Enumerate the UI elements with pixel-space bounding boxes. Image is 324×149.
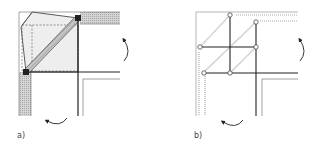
figure-canvas — [0, 0, 324, 149]
rotation-arrow-icon — [223, 120, 243, 126]
pin-node — [254, 20, 258, 24]
inner-corner — [83, 79, 120, 116]
rotation-arrow-icon — [300, 40, 304, 61]
pin-node — [198, 45, 202, 49]
rotation-arrow-icon — [47, 118, 67, 124]
top-wall-hatched — [80, 12, 120, 24]
pin-node — [228, 71, 232, 75]
left-wall-hatched — [19, 72, 31, 116]
rotation-arrow-icon — [124, 40, 128, 61]
panel-b — [196, 12, 304, 126]
pin-node — [254, 45, 258, 49]
panel-a-label: a) — [17, 131, 25, 140]
node-dark — [75, 15, 81, 21]
panel-b-label: b) — [194, 131, 202, 140]
inner-corner — [262, 79, 298, 116]
pin-node — [228, 13, 232, 17]
panel-a — [19, 12, 128, 124]
joint-region — [21, 12, 78, 72]
node-dark — [23, 69, 29, 75]
pin-node — [202, 71, 206, 75]
